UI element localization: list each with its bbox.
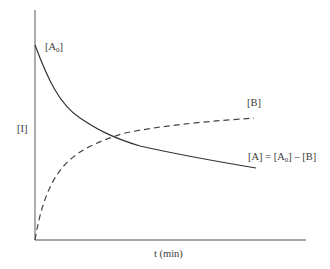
x-axis-label: t (min) <box>154 249 183 260</box>
a0-label-suffix: ] <box>60 41 64 52</box>
y-axis-label: [I] <box>17 124 28 135</box>
a-equation-label: [A] = [A0] – [B] <box>248 152 316 164</box>
eq-part2: ] – [B] <box>288 151 316 162</box>
a0-label: [A0] <box>45 42 63 54</box>
eq-part1: [A] = [A <box>248 151 285 162</box>
a0-label-prefix: [A <box>45 41 56 52</box>
b-concentration-curve <box>35 118 254 240</box>
b-label: [B] <box>247 98 261 109</box>
a-concentration-curve <box>35 45 256 168</box>
